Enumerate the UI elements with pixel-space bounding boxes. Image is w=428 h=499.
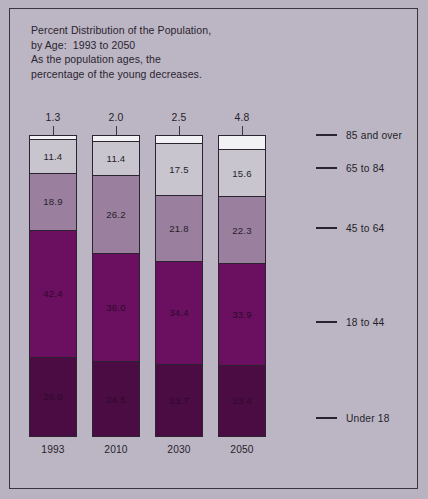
legend-item-under-18: Under 18 xyxy=(316,412,390,424)
segment-value-label: 26.2 xyxy=(106,209,125,220)
segment-2030-85-and-over xyxy=(156,136,202,143)
legend-item-45-to-64: 45 to 64 xyxy=(316,222,384,234)
x-axis-label-2050: 2050 xyxy=(218,444,266,455)
segment-value-label: 18.9 xyxy=(43,196,62,207)
segment-value-label: 34.4 xyxy=(169,307,188,318)
segment-value-label: 36.0 xyxy=(106,302,125,313)
segment-value-label: 17.5 xyxy=(169,164,188,175)
segment-2010-45-to-64: 26.2 xyxy=(93,176,139,255)
segment-1993-65-to-84: 11.4 xyxy=(30,140,76,174)
segment-value-label: 21.8 xyxy=(169,223,188,234)
bar-1993: 11.418.942.426.0 xyxy=(29,135,77,437)
segment-value-label: 33.9 xyxy=(232,309,251,320)
segment-2050-85-and-over xyxy=(219,136,265,150)
x-axis-label-2010: 2010 xyxy=(92,444,140,455)
bar-2010: 11.426.236.024.5 xyxy=(92,135,140,437)
segment-value-label: 23.7 xyxy=(169,395,188,406)
segment-value-label: 26.0 xyxy=(43,391,62,402)
top-value-label-2010: 2.0 xyxy=(92,112,140,123)
legend-tick-icon xyxy=(316,227,337,228)
legend-label: 65 to 84 xyxy=(346,163,384,174)
leader-line-2050 xyxy=(242,126,243,135)
legend-label: 45 to 64 xyxy=(346,223,384,234)
top-value-label-1993: 1.3 xyxy=(29,112,77,123)
x-axis-label-1993: 1993 xyxy=(29,444,77,455)
top-value-label-2050: 4.8 xyxy=(218,112,266,123)
legend-label: 85 and over xyxy=(346,130,402,141)
segment-value-label: 11.4 xyxy=(107,153,126,164)
legend-item-85-and-over: 85 and over xyxy=(316,129,402,141)
segment-2010-under-18: 24.5 xyxy=(93,362,139,435)
legend-tick-icon xyxy=(316,167,337,168)
segment-2030-18-to-44: 34.4 xyxy=(156,262,202,365)
segment-value-label: 24.5 xyxy=(106,394,125,405)
bar-2050: 15.622.333.923.4 xyxy=(218,135,266,437)
x-axis-label-2030: 2030 xyxy=(155,444,203,455)
segment-1993-45-to-64: 18.9 xyxy=(30,174,76,231)
segment-value-label: 11.4 xyxy=(44,151,63,162)
leader-line-1993 xyxy=(53,126,54,135)
top-value-label-2030: 2.5 xyxy=(155,112,203,123)
bar-2030: 17.521.834.423.7 xyxy=(155,135,203,437)
legend-item-65-to-84: 65 to 84 xyxy=(316,162,384,174)
segment-value-label: 23.4 xyxy=(232,395,251,406)
legend-label: 18 to 44 xyxy=(346,317,384,328)
segment-value-label: 22.3 xyxy=(232,225,251,236)
leader-line-2030 xyxy=(179,126,180,135)
legend-tick-icon xyxy=(316,321,337,322)
segment-2010-65-to-84: 11.4 xyxy=(93,142,139,176)
segment-2010-18-to-44: 36.0 xyxy=(93,254,139,362)
segment-value-label: 15.6 xyxy=(232,168,251,179)
segment-2030-65-to-84: 17.5 xyxy=(156,144,202,196)
legend-tick-icon xyxy=(316,417,337,418)
segment-1993-under-18: 26.0 xyxy=(30,358,76,436)
segment-2050-under-18: 23.4 xyxy=(219,366,265,436)
legend-tick-icon xyxy=(316,134,337,135)
segment-2050-45-to-64: 22.3 xyxy=(219,197,265,264)
stacked-bar-chart: 11.418.942.426.01.3199311.426.236.024.52… xyxy=(0,0,428,499)
legend-item-18-to-44: 18 to 44 xyxy=(316,316,384,328)
segment-2030-under-18: 23.7 xyxy=(156,365,202,436)
legend-label: Under 18 xyxy=(346,413,390,424)
leader-line-2010 xyxy=(116,126,117,135)
segment-2050-18-to-44: 33.9 xyxy=(219,264,265,366)
segment-2050-65-to-84: 15.6 xyxy=(219,150,265,197)
segment-2030-45-to-64: 21.8 xyxy=(156,196,202,261)
segment-value-label: 42.4 xyxy=(43,288,62,299)
segment-1993-18-to-44: 42.4 xyxy=(30,231,76,358)
